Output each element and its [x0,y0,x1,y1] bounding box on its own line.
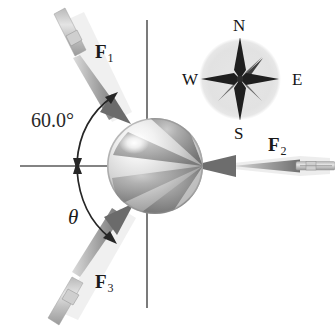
compass-label-north: N [233,17,245,34]
force-vector-F2 [190,155,335,177]
force-label-F3: F3 [95,272,113,291]
force-label-F3-letter: F [95,271,107,292]
ball-highlight [119,132,149,154]
compass-label-west: W [182,71,198,88]
diagram-canvas [0,0,335,328]
angle-label-theta: θ [68,207,78,228]
angle-theta-arrowhead-upper [73,161,82,174]
compass-rose [199,37,281,121]
force-label-F2-sub: 2 [281,144,287,158]
physics-force-diagram: F1 F2 F3 60.0° θ N E S W [0,0,335,328]
angle-label-60-degrees: 60.0° [31,110,74,130]
force-label-F1-letter: F [95,41,107,62]
force-vector-F1 [54,8,132,124]
force-vector-F3 [48,203,136,325]
beach-ball [107,117,204,214]
compass-label-east: E [292,71,302,88]
force-label-F2-letter: F [268,134,280,155]
compass-label-south: S [234,125,243,142]
force-label-F1: F1 [95,42,113,61]
force-label-F1-sub: 1 [108,51,114,65]
force-label-F2: F2 [268,135,286,154]
force-label-F3-sub: 3 [108,281,114,295]
